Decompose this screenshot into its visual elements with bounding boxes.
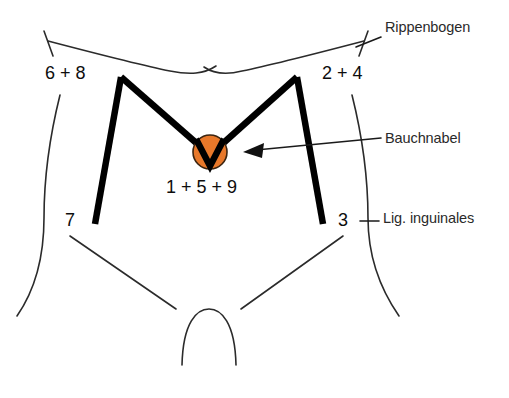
anatomical-diagram: Rippenbogen Bauchnabel Lig. inguinales 6…: [0, 0, 509, 398]
muscle-line-right-outer: [297, 77, 323, 224]
muscle-line-left-outer: [95, 77, 121, 224]
inguinal-ligament-left: [70, 236, 176, 309]
arrow-left-icon: [243, 143, 264, 158]
inguinal-ligament-right: [241, 236, 343, 309]
annotation-label-rippenbogen: Rippenbogen: [385, 19, 470, 35]
point-label-right-lower: 3: [338, 210, 348, 231]
torso-illustration: [0, 0, 509, 398]
point-label-left-upper: 6 + 8: [45, 63, 86, 84]
annotation-label-bauchnabel: Bauchnabel: [385, 130, 461, 146]
annotation-label-lig-inguinales: Lig. inguinales: [383, 210, 474, 226]
pubic-arch: [182, 309, 236, 365]
rib-arch-left-tick: [44, 31, 53, 56]
flank-contour-left: [17, 95, 60, 316]
point-label-left-lower: 7: [65, 210, 75, 231]
point-label-right-upper: 2 + 4: [322, 63, 363, 84]
point-label-center: 1 + 5 + 9: [166, 177, 237, 198]
flank-contour-right: [352, 95, 399, 316]
